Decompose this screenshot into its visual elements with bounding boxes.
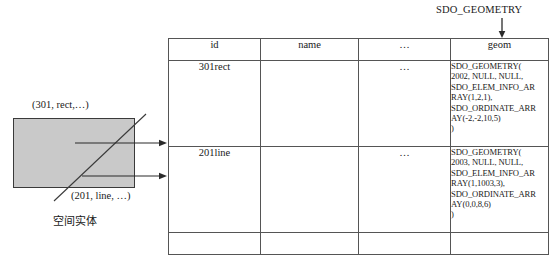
spatial-entity-caption: 空间实体 (53, 212, 97, 228)
rect-tuple-label: (301, rect,…) (32, 99, 89, 110)
cell-id: 301rect (169, 61, 261, 147)
cell-geom: SDO_GEOMETRY( 2002, NULL, NULL, SDO_ELEM… (451, 61, 549, 147)
table-header-row: id name … geom (169, 39, 549, 61)
column-header-geom: geom (451, 39, 549, 61)
cell-geom: SDO_GEOMETRY( 2003, NULL, NULL, SDO_ELEM… (451, 147, 549, 233)
down-arrow-icon (497, 18, 507, 38)
table-row: 201line … SDO_GEOMETRY( 2003, NULL, NULL… (169, 147, 549, 233)
cell-id: 201line (169, 147, 261, 233)
cell-name (261, 147, 359, 233)
column-header-name: name (261, 39, 359, 61)
cell-dots: … (359, 61, 451, 147)
cell-id (169, 233, 261, 255)
geometry-table: id name … geom 301rect … SDO_GEOMETRY( 2… (168, 38, 549, 255)
cell-geom (451, 233, 549, 255)
column-header-id: id (169, 39, 261, 61)
table-row-empty (169, 233, 549, 255)
column-header-dots: … (359, 39, 451, 61)
cell-name (261, 61, 359, 147)
spatial-entity-rectangle (13, 118, 135, 188)
cell-dots: … (359, 147, 451, 233)
cell-name (261, 233, 359, 255)
line-tuple-label: (201, line, …) (71, 190, 131, 201)
cell-dots (359, 233, 451, 255)
table-row: 301rect … SDO_GEOMETRY( 2002, NULL, NULL… (169, 61, 549, 147)
sdo-geometry-annotation-label: SDO_GEOMETRY (436, 4, 522, 15)
